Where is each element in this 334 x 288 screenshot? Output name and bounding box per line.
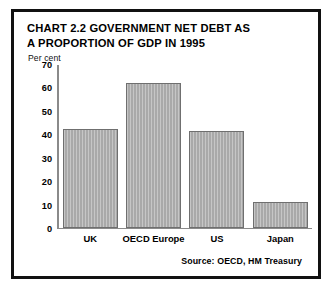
- bar-group: Japan: [249, 65, 312, 228]
- y-axis-tick-label: 20: [42, 177, 52, 187]
- y-axis-tick-label: 70: [42, 60, 52, 70]
- bar-oecd-europe[interactable]: [126, 83, 181, 227]
- bar-group: OECD Europe: [122, 65, 185, 228]
- bar-us[interactable]: [189, 131, 244, 227]
- y-axis-tick-label: 60: [42, 83, 52, 93]
- source-note: Source: OECD, HM Treasury: [181, 256, 302, 266]
- chart-title-line-1: CHART 2.2 GOVERNMENT NET DEBT AS: [27, 21, 309, 36]
- y-axis-tick-label: 50: [42, 107, 52, 117]
- x-axis-category-label: UK: [59, 233, 122, 244]
- bar-uk[interactable]: [63, 129, 118, 227]
- bars-layer: UKOECD EuropeUSJapan: [59, 65, 313, 228]
- page-title: CHART 2.2 GOVERNMENT NET DEBT AS A PROPO…: [27, 21, 309, 50]
- y-axis-tick-label: 10: [42, 201, 52, 211]
- chart-card: CHART 2.2 GOVERNMENT NET DEBT AS A PROPO…: [11, 9, 321, 279]
- x-axis-category-label: US: [185, 233, 248, 244]
- x-axis-category-label: OECD Europe: [122, 233, 185, 244]
- x-axis-line: [57, 228, 312, 230]
- chart-title-line-2: A PROPORTION OF GDP IN 1995: [27, 36, 309, 51]
- bar-group: UK: [59, 65, 122, 228]
- bar-group: US: [185, 65, 248, 228]
- bar-japan[interactable]: [253, 202, 308, 228]
- y-axis-tick-label: 30: [42, 154, 52, 164]
- x-axis-category-label: Japan: [249, 233, 312, 244]
- plot-area: 010203040506070 UKOECD EuropeUSJapan: [57, 65, 312, 229]
- y-axis-tick-label: 0: [47, 224, 52, 234]
- y-axis-tick-label: 40: [42, 130, 52, 140]
